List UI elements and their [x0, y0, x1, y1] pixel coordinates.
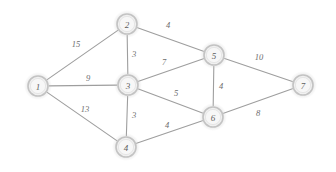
graph-node-4[interactable]: 4 [112, 133, 140, 161]
node-label-7: 7 [301, 81, 306, 91]
graph-edge-2-5 [138, 28, 204, 51]
node-label-1: 1 [36, 82, 41, 92]
graph-edge-1-4 [47, 92, 117, 140]
edge-weight-label-1-3: 9 [86, 73, 91, 83]
node-label-3: 3 [125, 81, 131, 91]
graph-node-2[interactable]: 2 [113, 10, 141, 38]
graph-svg: 159133473544108 1234567 [0, 0, 336, 172]
graph-edge-5-6 [213, 66, 214, 106]
edge-weight-label-1-4: 13 [81, 104, 90, 114]
edges-layer [47, 28, 292, 144]
graph-edge-4-6 [137, 121, 203, 144]
graph-edge-5-7 [225, 59, 293, 82]
node-label-4: 4 [124, 143, 129, 153]
node-label-2: 2 [125, 20, 130, 30]
graph-edge-3-4 [126, 96, 127, 136]
graph-node-6[interactable]: 6 [199, 103, 227, 131]
edge-weights-layer: 159133473544108 [72, 20, 264, 130]
edge-weight-label-3-6: 5 [174, 88, 178, 98]
graph-edge-1-2 [47, 30, 118, 79]
edge-weight-label-1-2: 15 [72, 39, 81, 49]
edge-weight-label-6-7: 8 [256, 108, 261, 118]
graph-node-1[interactable]: 1 [24, 72, 52, 100]
edge-weight-label-3-5: 7 [162, 57, 167, 67]
graph-edge-2-3 [127, 35, 128, 74]
graph-edge-1-3 [49, 85, 117, 86]
edge-weight-label-5-7: 10 [255, 52, 264, 62]
node-label-5: 5 [212, 51, 217, 61]
edge-weight-label-4-6: 4 [165, 120, 170, 130]
node-label-6: 6 [211, 113, 216, 123]
edge-weight-label-5-6: 4 [219, 81, 224, 91]
graph-node-3[interactable]: 3 [114, 71, 142, 99]
graph-edge-3-5 [139, 59, 204, 82]
edge-weight-label-3-4: 3 [131, 110, 136, 120]
edge-weight-label-2-5: 4 [166, 20, 171, 30]
edge-weight-label-2-3: 3 [131, 49, 136, 59]
graph-diagram-canvas: 159133473544108 1234567 [0, 0, 336, 172]
graph-edge-3-6 [138, 89, 202, 113]
graph-node-5[interactable]: 5 [200, 41, 228, 69]
graph-node-7[interactable]: 7 [289, 71, 317, 99]
